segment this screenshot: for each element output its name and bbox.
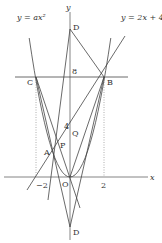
point-c-label: C xyxy=(27,78,33,87)
point-d-bottom-label: D xyxy=(73,228,79,237)
y-axis-label: y xyxy=(65,3,71,12)
point-d-top-label: D xyxy=(73,23,79,32)
point-q-label: Q xyxy=(72,129,79,138)
point-a-label: A xyxy=(43,148,50,157)
tick-y8-label: 8 xyxy=(72,67,77,76)
point-p-label: P xyxy=(60,141,66,150)
line-y-2x-plus-4 xyxy=(27,36,125,190)
tick-x-neg2-label: −2 xyxy=(36,181,48,190)
tick-y4-label: 4 xyxy=(64,122,69,131)
point-b-label: B xyxy=(107,78,113,87)
line-d-top-down xyxy=(48,29,70,200)
origin-label: O xyxy=(62,180,69,189)
parabola-label: y = ax² xyxy=(16,13,46,22)
x-axis-label: x xyxy=(150,173,155,182)
segment-d-bottom-b xyxy=(70,77,104,227)
tick-x-pos2-label: 2 xyxy=(101,181,106,190)
line-label: y = 2x + 4 xyxy=(120,13,162,22)
segment-d-bottom-c xyxy=(36,77,70,227)
segment-b-o xyxy=(70,77,104,177)
diagram-canvas: y x O y = ax² y = 2x + 4 D D C B A P Q 8… xyxy=(0,0,162,243)
